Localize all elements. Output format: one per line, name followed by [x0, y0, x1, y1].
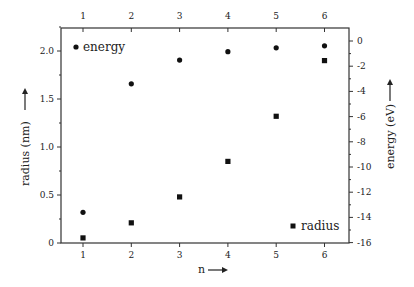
y-right-tick-label: 0 — [357, 36, 363, 46]
y-left-tick-label: 1.5 — [40, 94, 55, 104]
radius-point — [225, 159, 230, 164]
bohr-model-chart: 11223344556600.51.01.52.00-2-4-6-8-10-12… — [0, 0, 414, 287]
x-top-tick-label: 4 — [225, 11, 231, 21]
x-axis-label: n — [198, 263, 205, 276]
x-top-tick-label: 1 — [80, 11, 86, 21]
x-tick-label: 2 — [128, 250, 134, 260]
y-right-tick-label: -2 — [357, 61, 366, 71]
x-top-tick-label: 6 — [322, 11, 328, 21]
energy-point — [274, 45, 279, 50]
y-right-tick-label: -6 — [357, 112, 366, 122]
left-axis-arrow-icon — [22, 88, 28, 110]
y-right-tick-label: -10 — [357, 162, 372, 172]
energy-point — [80, 210, 85, 215]
energy-point — [322, 43, 327, 48]
x-tick-label: 6 — [322, 250, 328, 260]
legend-energy: energy — [73, 40, 125, 54]
circle-marker-icon — [73, 44, 78, 49]
y-left-tick-label: 2.0 — [40, 46, 55, 56]
legend-energy-label: energy — [83, 40, 125, 54]
radius-point — [274, 114, 279, 119]
x-top-tick-label: 5 — [273, 11, 279, 21]
legend-radius: radius — [291, 219, 340, 233]
y-right-tick-label: -16 — [357, 238, 372, 248]
y-right-tick-label: -14 — [357, 212, 372, 222]
x-axis-arrow-icon — [208, 267, 228, 273]
y-right-tick-label: -12 — [357, 187, 372, 197]
y-left-tick-label: 1.0 — [40, 142, 55, 152]
energy-point — [177, 57, 182, 62]
y-right-tick-label: -8 — [357, 137, 366, 147]
x-top-tick-label: 3 — [177, 11, 183, 21]
energy-point — [129, 81, 134, 86]
left-axis-label: radius (nm) — [19, 121, 32, 186]
x-tick-label: 5 — [273, 250, 279, 260]
radius-point — [129, 220, 134, 225]
radius-point — [322, 58, 327, 63]
x-top-tick-label: 2 — [128, 11, 134, 21]
right-axis-arrow-icon — [387, 79, 393, 101]
right-axis-label: energy (eV) — [384, 104, 397, 169]
plot-frame — [61, 28, 349, 243]
x-tick-label: 3 — [177, 250, 183, 260]
data-points — [80, 43, 327, 240]
square-marker-icon — [291, 224, 296, 229]
radius-point — [177, 194, 182, 199]
legend-radius-label: radius — [301, 219, 339, 233]
energy-point — [225, 49, 230, 54]
x-tick-label: 4 — [225, 250, 231, 260]
y-left-tick-label: 0 — [48, 238, 54, 248]
axis-ticks — [57, 27, 353, 247]
y-left-tick-label: 0.5 — [40, 190, 55, 200]
radius-point — [80, 235, 85, 240]
x-tick-label: 1 — [80, 250, 86, 260]
y-right-tick-label: -4 — [357, 86, 366, 96]
